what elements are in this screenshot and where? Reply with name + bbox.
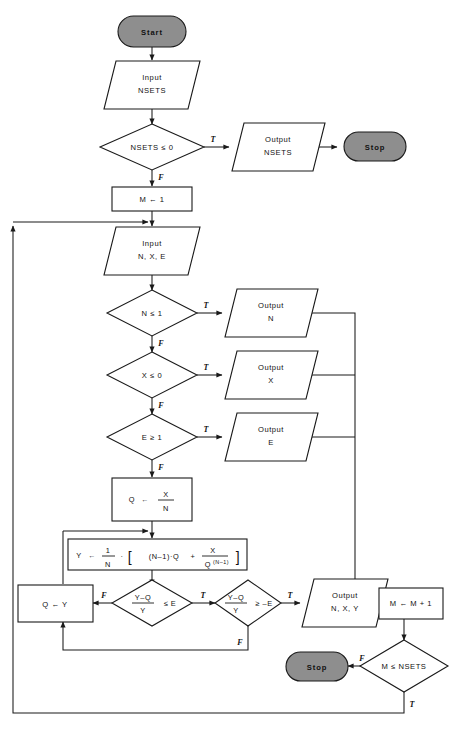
node-y-calc-n: N [105,560,111,569]
flag-dec-n-false: F [157,339,164,348]
node-out-x-line2: X [268,376,274,385]
flag-dec-ge-true: T [288,591,294,600]
node-stop-bottom: Stop [286,652,348,681]
node-out-e: Output E [225,413,318,461]
node-dec-n-label: N ≤ 1 [142,309,163,318]
node-dec-msets: M ≤ NSETS [360,640,448,692]
node-out-nxy: Output N, X, Y [302,579,388,627]
node-dec-ge-denominator: Y [233,606,238,615]
edge-dec-msets-true [13,226,404,713]
node-out-nsets-line2: NSETS [264,148,292,157]
node-dec-x: X ≤ 0 [107,352,197,398]
node-y-calc: Y ← 1 N · [ (N–1)·Q + X Q (N–1) ] [68,539,247,570]
node-out-e-line2: E [268,438,274,447]
node-y-calc-frac-den-base: Q [205,560,211,569]
node-dec-nsets-label: NSETS ≤ 0 [131,143,174,152]
node-q-init: Q ← X N [112,478,192,521]
node-dec-le-comparator: ≤ E [164,599,177,608]
node-q-assign-label: Q ← Y [42,600,67,609]
node-y-calc-bracket-open: [ [128,549,132,565]
node-stop-top: Stop [344,132,406,161]
node-dec-x-label: X ≤ 0 [142,371,162,380]
node-dec-le-denominator: Y [140,606,145,615]
flag-dec-ge-false: F [236,638,243,647]
node-out-nxy-line2: N, X, Y [331,604,359,613]
node-q-init-lhs: Q [129,495,135,504]
flag-dec-e-false: F [157,463,164,472]
edge-dec-ge-false [63,622,248,650]
flag-dec-nsets-false: F [157,173,164,182]
node-stop-bottom-label: Stop [307,663,327,672]
node-y-calc-frac-num: X [210,546,215,555]
node-start: Start [118,16,186,47]
node-start-label: Start [141,28,163,37]
node-dec-ge: Y–Q Y ≥ –E [215,580,281,626]
node-y-calc-plus: + [191,552,196,561]
flag-dec-msets-false: F [358,654,365,663]
node-dec-ge-numerator: Y–Q [228,593,244,602]
node-y-calc-lhs: Y [76,551,81,560]
node-q-init-denominator: N [163,504,169,513]
node-y-calc-frac-den-exp: (N–1) [213,559,229,565]
node-y-calc-dot: · [120,552,123,561]
flag-dec-nsets-true: T [211,135,217,144]
node-input-nxe-line1: Input [142,239,162,248]
flag-dec-e-true: T [204,425,210,434]
node-input-nsets-line1: Input [142,73,162,82]
flag-dec-n-true: T [204,301,210,310]
node-out-nsets: Output NSETS [232,123,325,171]
node-dec-e: E ≥ 1 [107,414,197,460]
flag-dec-le-false: F [100,591,107,600]
node-y-calc-bracket-close: ] [236,549,240,565]
flowchart-svg: T F T F T F T F F T T F F T Start Input … [0,0,452,731]
node-y-calc-term1: (N–1)·Q [149,552,180,561]
node-input-nsets: Input NSETS [104,61,200,109]
node-out-n-line2: N [268,314,274,323]
node-input-nxe-line2: N, X, E [138,252,166,261]
node-m-incr: M ← M + 1 [379,588,443,619]
node-y-calc-one: 1 [106,546,111,555]
node-dec-le: Y–Q Y ≤ E [112,580,192,626]
node-m-init: M ← 1 [112,187,192,211]
node-out-nsets-line1: Output [265,135,291,144]
node-input-nsets-line2: NSETS [138,86,166,95]
node-out-nxy-line1: Output [332,591,358,600]
node-m-incr-label: M ← M + 1 [390,599,432,608]
node-stop-top-label: Stop [365,143,385,152]
node-dec-msets-label: M ≤ NSETS [382,662,427,671]
node-q-assign: Q ← Y [18,585,93,622]
node-q-init-numerator: X [163,490,168,499]
flag-dec-x-false: F [157,401,164,410]
flag-dec-x-true: T [204,363,210,372]
node-dec-e-label: E ≥ 1 [142,433,162,442]
node-q-init-arrow: ← [141,495,149,504]
flag-dec-msets-true: T [410,700,416,709]
flowchart-canvas: T F T F T F T F F T T F F T Start Input … [0,0,452,731]
node-dec-nsets: NSETS ≤ 0 [100,124,204,170]
node-dec-le-numerator: Y–Q [135,593,151,602]
node-out-x-line1: Output [258,363,284,372]
node-out-n: Output N [225,289,318,337]
node-y-calc-arrow: ← [88,551,96,560]
flag-dec-le-true: T [201,591,207,600]
node-m-init-label: M ← 1 [139,195,164,204]
node-out-x: Output X [225,351,318,399]
node-input-nxe: Input N, X, E [104,227,200,275]
node-dec-n: N ≤ 1 [107,290,197,336]
node-out-n-line1: Output [258,301,284,310]
node-dec-ge-comparator: ≥ –E [255,599,272,608]
node-out-e-line1: Output [258,425,284,434]
